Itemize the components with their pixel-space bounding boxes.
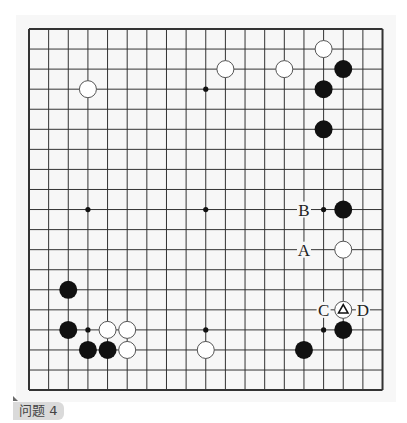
white-stone[interactable] — [217, 61, 234, 78]
label-text: C — [318, 301, 329, 320]
star-point — [203, 87, 208, 92]
white-stone[interactable] — [119, 341, 136, 358]
black-stone[interactable] — [59, 281, 77, 299]
label-text: B — [298, 201, 309, 220]
black-stone[interactable] — [295, 341, 313, 359]
star-point — [85, 207, 90, 212]
point-label-c[interactable]: C — [317, 301, 331, 320]
white-stone[interactable] — [197, 341, 214, 358]
white-stone[interactable] — [315, 41, 332, 58]
white-stone[interactable] — [335, 241, 352, 258]
black-stone[interactable] — [315, 80, 333, 98]
problem-title: 问题 4 — [13, 402, 64, 420]
point-labels: BACD — [297, 201, 370, 320]
black-stone[interactable] — [59, 321, 77, 339]
star-point — [203, 207, 208, 212]
black-stone[interactable] — [334, 60, 352, 78]
label-text: A — [298, 241, 311, 260]
white-stone[interactable] — [99, 321, 116, 338]
black-stone[interactable] — [334, 201, 352, 219]
white-stone[interactable] — [335, 301, 352, 318]
white-stone[interactable] — [79, 81, 96, 98]
white-stone[interactable] — [276, 61, 293, 78]
black-stone[interactable] — [315, 120, 333, 138]
star-point — [85, 327, 90, 332]
point-label-a[interactable]: A — [297, 241, 311, 260]
black-stone[interactable] — [79, 341, 97, 359]
point-label-d[interactable]: D — [356, 301, 370, 320]
black-stone[interactable] — [99, 341, 117, 359]
white-stone[interactable] — [119, 321, 136, 338]
star-point — [321, 327, 326, 332]
star-point — [203, 327, 208, 332]
black-stone[interactable] — [334, 321, 352, 339]
go-board[interactable]: BACD — [0, 0, 407, 423]
point-label-b[interactable]: B — [297, 201, 311, 220]
caption-corner-icon — [13, 396, 18, 401]
label-text: D — [357, 301, 369, 320]
star-point — [321, 207, 326, 212]
